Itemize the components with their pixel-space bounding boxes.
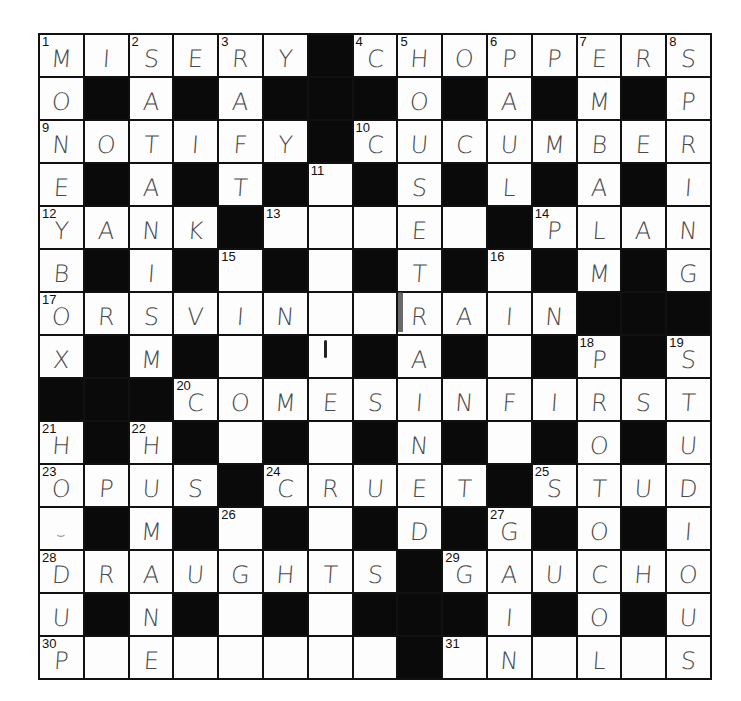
- grid-cell[interactable]: T: [130, 121, 173, 162]
- grid-cell[interactable]: T: [443, 465, 486, 506]
- grid-cell[interactable]: 22H: [130, 422, 173, 463]
- grid-cell[interactable]: G: [667, 250, 710, 291]
- grid-cell[interactable]: [309, 336, 352, 377]
- grid-cell[interactable]: [622, 637, 665, 678]
- grid-cell[interactable]: U: [533, 551, 576, 592]
- grid-cell[interactable]: D: [667, 465, 710, 506]
- grid-cell[interactable]: T: [578, 465, 621, 506]
- grid-cell[interactable]: F: [488, 379, 531, 420]
- grid-cell[interactable]: 8S: [667, 35, 710, 76]
- grid-cell[interactable]: H: [622, 551, 665, 592]
- grid-cell[interactable]: [533, 637, 576, 678]
- grid-cell[interactable]: 14P: [533, 207, 576, 248]
- grid-cell[interactable]: M: [130, 336, 173, 377]
- grid-cell[interactable]: M: [578, 250, 621, 291]
- grid-cell[interactable]: A: [488, 78, 531, 119]
- grid-cell[interactable]: S: [398, 164, 441, 205]
- grid-cell[interactable]: G: [219, 551, 262, 592]
- grid-cell[interactable]: [309, 207, 352, 248]
- grid-cell[interactable]: B: [578, 121, 621, 162]
- grid-cell[interactable]: N: [533, 293, 576, 334]
- grid-cell[interactable]: 23O: [40, 465, 83, 506]
- grid-cell[interactable]: S: [667, 637, 710, 678]
- grid-cell[interactable]: M: [130, 508, 173, 549]
- grid-cell[interactable]: R: [578, 379, 621, 420]
- grid-cell[interactable]: 28D: [40, 551, 83, 592]
- grid-cell[interactable]: A: [219, 78, 262, 119]
- grid-cell[interactable]: C: [443, 121, 486, 162]
- grid-cell[interactable]: U: [398, 121, 441, 162]
- grid-cell[interactable]: L: [578, 637, 621, 678]
- grid-cell[interactable]: [219, 422, 262, 463]
- grid-cell[interactable]: 5H: [398, 35, 441, 76]
- grid-cell[interactable]: E: [174, 35, 217, 76]
- grid-cell[interactable]: B: [40, 250, 83, 291]
- grid-cell[interactable]: [219, 637, 262, 678]
- grid-cell[interactable]: E: [398, 207, 441, 248]
- grid-cell[interactable]: 16: [488, 250, 531, 291]
- grid-cell[interactable]: E: [622, 121, 665, 162]
- grid-cell[interactable]: N: [398, 422, 441, 463]
- grid-cell[interactable]: ⌣: [40, 508, 83, 549]
- grid-cell[interactable]: 18P: [578, 336, 621, 377]
- grid-cell[interactable]: [219, 594, 262, 635]
- grid-cell[interactable]: P: [533, 35, 576, 76]
- grid-cell[interactable]: S: [622, 379, 665, 420]
- grid-cell[interactable]: O: [667, 551, 710, 592]
- grid-cell[interactable]: 25S: [533, 465, 576, 506]
- grid-cell[interactable]: R: [622, 35, 665, 76]
- grid-cell[interactable]: 9N: [40, 121, 83, 162]
- grid-cell[interactable]: M: [533, 121, 576, 162]
- grid-cell[interactable]: S: [174, 465, 217, 506]
- grid-cell[interactable]: [264, 637, 307, 678]
- grid-cell[interactable]: 1M: [40, 35, 83, 76]
- grid-cell[interactable]: I: [488, 594, 531, 635]
- grid-cell[interactable]: 27G: [488, 508, 531, 549]
- grid-cell[interactable]: M: [578, 78, 621, 119]
- grid-cell[interactable]: R: [85, 551, 128, 592]
- grid-cell[interactable]: [85, 637, 128, 678]
- grid-cell[interactable]: 7E: [578, 35, 621, 76]
- grid-cell[interactable]: O: [398, 78, 441, 119]
- grid-cell[interactable]: O: [85, 121, 128, 162]
- grid-cell[interactable]: [488, 422, 531, 463]
- grid-cell[interactable]: I: [667, 508, 710, 549]
- grid-cell[interactable]: S: [354, 379, 397, 420]
- grid-cell[interactable]: T: [219, 164, 262, 205]
- grid-cell[interactable]: N: [130, 594, 173, 635]
- grid-cell[interactable]: R: [309, 465, 352, 506]
- grid-cell[interactable]: [309, 594, 352, 635]
- grid-cell[interactable]: K: [174, 207, 217, 248]
- grid-cell[interactable]: [309, 250, 352, 291]
- grid-cell[interactable]: 20C: [174, 379, 217, 420]
- grid-cell[interactable]: C: [578, 551, 621, 592]
- grid-cell[interactable]: O: [443, 35, 486, 76]
- grid-cell[interactable]: U: [622, 465, 665, 506]
- grid-cell[interactable]: A: [622, 207, 665, 248]
- grid-cell[interactable]: U: [174, 551, 217, 592]
- grid-cell[interactable]: T: [667, 379, 710, 420]
- grid-cell[interactable]: 17O: [40, 293, 83, 334]
- grid-cell[interactable]: V: [174, 293, 217, 334]
- grid-cell[interactable]: 12Y: [40, 207, 83, 248]
- grid-cell[interactable]: N: [264, 293, 307, 334]
- grid-cell[interactable]: I: [398, 379, 441, 420]
- grid-cell[interactable]: S: [130, 293, 173, 334]
- grid-cell[interactable]: A: [130, 551, 173, 592]
- grid-cell[interactable]: I: [174, 121, 217, 162]
- grid-cell[interactable]: Y: [264, 35, 307, 76]
- grid-cell[interactable]: E: [40, 164, 83, 205]
- grid-cell[interactable]: N: [130, 207, 173, 248]
- grid-cell[interactable]: N: [488, 637, 531, 678]
- grid-cell[interactable]: 26: [219, 508, 262, 549]
- grid-cell[interactable]: I: [219, 293, 262, 334]
- grid-cell[interactable]: 10C: [354, 121, 397, 162]
- grid-cell[interactable]: A: [130, 78, 173, 119]
- grid-cell[interactable]: [309, 422, 352, 463]
- grid-cell[interactable]: [354, 637, 397, 678]
- grid-cell[interactable]: U: [667, 594, 710, 635]
- grid-cell[interactable]: O: [219, 379, 262, 420]
- grid-cell[interactable]: [488, 336, 531, 377]
- grid-cell[interactable]: H: [264, 551, 307, 592]
- grid-cell[interactable]: A: [488, 551, 531, 592]
